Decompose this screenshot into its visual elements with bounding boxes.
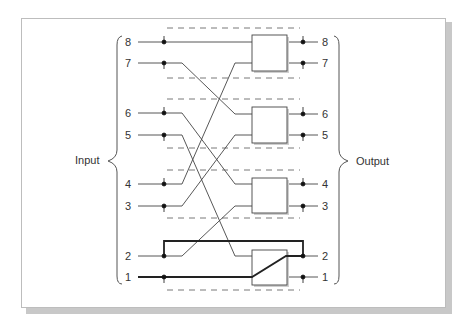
output-label-6: 6 — [322, 108, 328, 120]
switch-box-1 — [252, 35, 287, 71]
output-brace — [334, 36, 348, 284]
output-label-7: 7 — [322, 57, 328, 69]
output-labels: 8 7 6 5 4 3 2 1 — [322, 36, 328, 283]
input-label-5: 5 — [125, 129, 131, 141]
switch-box-4 — [252, 250, 287, 285]
output-label-4: 4 — [322, 178, 328, 190]
switch-boxes — [252, 35, 289, 287]
switch-box-2 — [252, 107, 287, 143]
input-brace — [108, 36, 122, 284]
input-label-1: 1 — [125, 271, 131, 283]
input-label-7: 7 — [125, 57, 131, 69]
input-label-2: 2 — [125, 250, 131, 262]
network-diagram: 8 7 6 5 4 3 2 1 8 7 6 5 4 3 2 1 Input Ou… — [0, 0, 468, 331]
input-label-6: 6 — [125, 107, 131, 119]
input-group-label: Input — [75, 154, 99, 166]
input-label-3: 3 — [125, 200, 131, 212]
output-label-3: 3 — [322, 200, 328, 212]
input-label-8: 8 — [125, 36, 131, 48]
output-label-8: 8 — [322, 36, 328, 48]
output-label-2: 2 — [322, 250, 328, 262]
input-labels: 8 7 6 5 4 3 2 1 — [125, 36, 131, 283]
switch-box-3 — [252, 178, 287, 213]
input-label-4: 4 — [125, 178, 131, 190]
output-group-label: Output — [356, 155, 389, 167]
output-label-5: 5 — [322, 129, 328, 141]
output-label-1: 1 — [322, 271, 328, 283]
